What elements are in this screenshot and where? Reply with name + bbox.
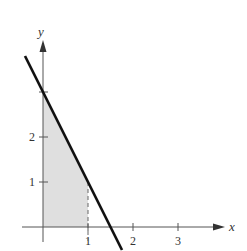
- y-tick-label-1: 1: [29, 175, 35, 189]
- y-axis-label: y: [36, 24, 44, 39]
- y-axis-arrow-icon: [40, 40, 47, 52]
- x-tick-label-3: 3: [175, 234, 181, 248]
- shaded-region: [43, 92, 88, 227]
- x-axis-label: x: [228, 219, 235, 234]
- x-axis-arrow-icon: [213, 224, 225, 231]
- graph: x y 1 2 3 1 2: [0, 0, 247, 251]
- y-tick-label-2: 2: [29, 130, 35, 144]
- x-tick-label-2: 2: [130, 234, 136, 248]
